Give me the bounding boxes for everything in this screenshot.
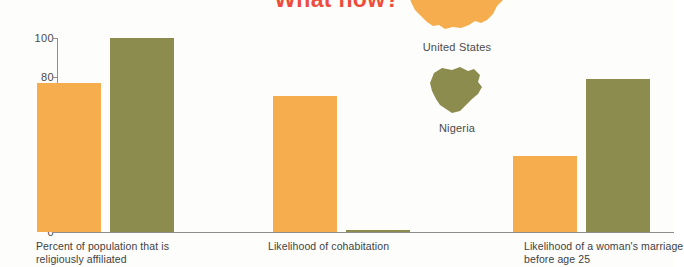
y-tick-mark (52, 232, 58, 233)
y-tick-mark (52, 38, 58, 39)
legend-label-united-states: United States (372, 41, 542, 53)
x-axis-label-0: Percent of population that is religiousl… (36, 240, 211, 265)
x-axis-line (57, 232, 674, 233)
y-tick-mark (52, 77, 58, 78)
bar-nigeria-2[interactable] (586, 79, 650, 232)
map-nigeria-icon (422, 61, 492, 121)
y-tick-label: 80 (0, 71, 54, 83)
y-tick-label: 100 (0, 32, 54, 44)
map-united-states-icon (397, 0, 517, 40)
bar-united-states-2[interactable] (513, 156, 577, 232)
bar-united-states-1[interactable] (273, 96, 337, 232)
bar-united-states-0[interactable] (37, 83, 101, 232)
bar-nigeria-1[interactable] (346, 230, 410, 232)
legend: United States Nigeria (372, 0, 542, 134)
legend-label-nigeria: Nigeria (372, 122, 542, 134)
x-axis-label-1: Likelihood of cohabitation (268, 240, 453, 253)
x-axis-label-2: Likelihood of a woman's marriage before … (524, 240, 684, 265)
bar-nigeria-0[interactable] (110, 38, 174, 232)
legend-item-nigeria[interactable]: Nigeria (372, 61, 542, 134)
legend-item-united-states[interactable]: United States (372, 0, 542, 53)
